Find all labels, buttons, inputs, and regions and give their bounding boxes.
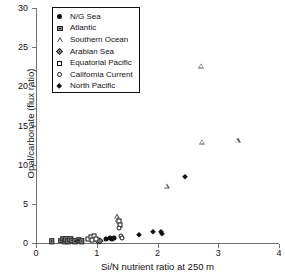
marker-triangle-open <box>235 138 241 143</box>
marker-diamond-filled <box>182 174 188 180</box>
marker-square-dot <box>49 238 55 244</box>
legend-item: North Pacific <box>57 81 136 93</box>
data-point <box>116 225 121 230</box>
legend-symbol <box>57 26 70 32</box>
marker-square-open <box>94 237 99 242</box>
data-point <box>111 236 116 241</box>
marker-triangle-open <box>164 183 170 188</box>
chart-legend: N/G SeaAtlanticSouthern OceanArabian Sea… <box>52 7 140 93</box>
marker-triangle-open <box>199 139 205 144</box>
data-point <box>235 138 241 143</box>
y-axis-title: Opal/carbonate (flux ratio) <box>25 34 36 214</box>
legend-label: Atlantic <box>70 24 96 32</box>
legend-item: N/G Sea <box>57 11 136 23</box>
legend-item: Atlantic <box>57 23 136 35</box>
legend-symbol <box>57 14 70 19</box>
marker-circle-open <box>57 72 62 77</box>
data-point <box>79 238 85 244</box>
data-point <box>120 235 125 240</box>
data-point <box>164 183 170 188</box>
x-tick-label: 3 <box>216 249 221 258</box>
data-point <box>94 237 99 242</box>
legend-label: North Pacific <box>70 82 115 90</box>
x-tick-label: 4 <box>276 249 281 258</box>
marker-square-dot <box>79 238 85 244</box>
legend-item: Arabian Sea <box>57 46 136 58</box>
marker-circle-open <box>120 235 125 240</box>
legend-item: California Current <box>57 69 136 81</box>
data-point <box>150 229 154 233</box>
legend-label: Arabian Sea <box>70 48 114 56</box>
marker-diamond-dot <box>56 48 63 55</box>
legend-label: Equatorial Pacific <box>70 59 132 67</box>
legend-symbol <box>57 37 70 42</box>
data-point <box>160 231 164 235</box>
legend-symbol <box>57 84 70 88</box>
legend-item: Southern Ocean <box>57 34 136 46</box>
x-tick-label: 1 <box>94 249 99 258</box>
data-point <box>199 139 205 144</box>
marker-circle-open <box>116 225 121 230</box>
legend-label: Southern Ocean <box>70 36 128 44</box>
x-axis-title: Si/N nutrient ratio at 250 m <box>36 261 279 272</box>
legend-symbol <box>57 72 70 77</box>
legend-item: Equatorial Pacific <box>57 57 136 69</box>
marker-circle-filled <box>57 14 62 19</box>
data-point <box>98 239 103 244</box>
x-tick-label: 2 <box>155 249 160 258</box>
marker-diamond-filled <box>56 83 62 89</box>
marker-diamond-filled <box>150 229 156 235</box>
marker-square-open <box>57 61 62 66</box>
data-point <box>198 63 204 68</box>
data-point <box>137 233 141 237</box>
legend-label: N/G Sea <box>70 13 101 21</box>
legend-symbol <box>57 61 70 66</box>
data-point <box>49 238 55 244</box>
marker-circle-filled <box>111 236 116 241</box>
marker-diamond-filled <box>136 232 142 238</box>
y-tick-label: 0 <box>6 239 28 248</box>
legend-symbol <box>57 49 70 54</box>
marker-diamond-filled <box>159 230 165 236</box>
marker-square-dot <box>57 26 63 32</box>
marker-triangle-open <box>198 63 204 68</box>
y-tick <box>32 243 36 244</box>
y-tick-label: 30 <box>6 4 28 13</box>
scatter-chart: 01234051015202530 Si/N nutrient ratio at… <box>0 0 285 273</box>
x-tick-label: 0 <box>33 249 38 258</box>
legend-label: California Current <box>70 71 133 79</box>
data-point <box>183 175 187 179</box>
marker-triangle-open <box>57 37 63 42</box>
